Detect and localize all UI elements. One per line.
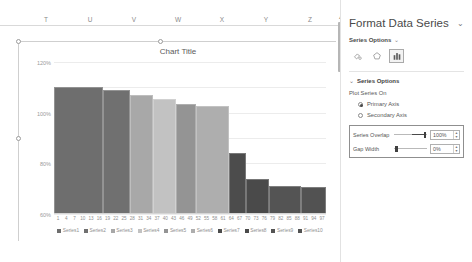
selection-handle-top-center[interactable]	[158, 39, 163, 44]
x-axis-tick-label: 16	[95, 216, 103, 221]
series-overlap-value[interactable]: 100%	[431, 132, 453, 138]
pane-collapse-icon[interactable]: ⌄	[457, 19, 464, 28]
x-axis-tick-label: 25	[120, 216, 128, 221]
bar-series1[interactable]	[54, 62, 103, 214]
fill-line-icon[interactable]	[349, 49, 364, 63]
legend-item[interactable]: Series6	[191, 228, 213, 233]
legend-item[interactable]: Series8	[245, 228, 267, 233]
bar-series8[interactable]	[246, 62, 269, 214]
gap-width-spinner[interactable]: 0% ▲ ▼	[430, 144, 460, 154]
gap-width-row[interactable]: Gap Width 0% ▲ ▼	[353, 143, 460, 154]
chart-border-top	[20, 41, 336, 42]
bar-fill[interactable]	[301, 187, 326, 214]
radio-primary-axis[interactable]: Primary Axis	[358, 101, 464, 107]
gap-width-value[interactable]: 0%	[431, 146, 453, 152]
bar-series3[interactable]	[130, 62, 153, 214]
series-options-section-header[interactable]: ⌄ Series Options	[349, 77, 464, 84]
gap-width-knob[interactable]	[395, 146, 398, 152]
legend-item[interactable]: Series4	[138, 228, 160, 233]
legend-label: Series4	[143, 228, 159, 233]
spin-down-icon[interactable]: ▼	[454, 149, 459, 153]
section-heading-label: Series Options	[357, 78, 399, 84]
x-axis-tick-label: 7	[71, 216, 79, 221]
legend-item[interactable]: Series7	[218, 228, 240, 233]
bar-fill[interactable]	[176, 104, 196, 214]
gap-width-slider[interactable]	[394, 145, 427, 153]
chart-title[interactable]: Chart Title	[18, 47, 338, 56]
series-overlap-label: Series Overlap	[353, 132, 391, 138]
bar-series10[interactable]	[301, 62, 326, 214]
x-axis-tick-label: 52	[194, 216, 202, 221]
spin-down-icon[interactable]: ▼	[454, 135, 459, 139]
legend-swatch	[271, 229, 275, 233]
column-header-u[interactable]: U	[66, 14, 114, 26]
x-axis-tick-label: 22	[112, 216, 120, 221]
radio-primary-axis-indicator[interactable]	[358, 102, 363, 107]
legend-label: Series7	[223, 228, 239, 233]
chart-object[interactable]: Chart Title 0%20%40%60%80%100%120% 14710…	[18, 32, 338, 244]
legend-item[interactable]: Series10	[298, 228, 322, 233]
y-axis-tick-label: 100%	[37, 111, 51, 117]
x-axis-tick-label: 82	[277, 216, 285, 221]
bar-fill[interactable]	[229, 153, 246, 214]
x-axis-tick-label: 49	[186, 216, 194, 221]
radio-secondary-axis-indicator[interactable]	[358, 113, 363, 118]
pane-subtitle: Series Options	[349, 37, 391, 43]
x-axis-tick-label: 61	[219, 216, 227, 221]
bar-series5[interactable]	[176, 62, 196, 214]
legend-label: Series3	[116, 228, 132, 233]
legend-swatch	[84, 229, 88, 233]
legend-item[interactable]: Series2	[84, 228, 106, 233]
bar-series4[interactable]	[153, 62, 176, 214]
column-header-y[interactable]: Y	[242, 14, 290, 26]
bar-series2[interactable]	[103, 62, 130, 214]
legend-item[interactable]: Series3	[111, 228, 133, 233]
gap-width-spin-arrows[interactable]: ▲ ▼	[453, 145, 459, 153]
column-header-v[interactable]: V	[110, 14, 158, 26]
bar-fill[interactable]	[246, 179, 269, 214]
column-header-w[interactable]: W	[154, 14, 202, 26]
y-axis-tick-label: 60%	[40, 212, 51, 218]
chevron-down-icon[interactable]: ⌄	[394, 36, 399, 43]
legend-item[interactable]: Series1	[57, 228, 79, 233]
effects-icon[interactable]	[369, 49, 384, 63]
column-header-x[interactable]: X	[198, 14, 246, 26]
pane-subtitle-row[interactable]: Series Options ⌄	[349, 36, 464, 43]
x-axis-tick-label: 73	[252, 216, 260, 221]
legend-label: Series1	[63, 228, 79, 233]
bar-series7[interactable]	[229, 62, 246, 214]
bar-fill[interactable]	[269, 186, 301, 214]
radio-primary-axis-label: Primary Axis	[367, 101, 399, 107]
chart-plot-area[interactable]: 0%20%40%60%80%100%120%	[54, 62, 326, 214]
series-overlap-spinner[interactable]: 100% ▲ ▼	[430, 130, 460, 140]
series-options-icon[interactable]	[389, 49, 404, 63]
bar-fill[interactable]	[153, 99, 176, 214]
legend-item[interactable]: Series9	[271, 228, 293, 233]
series-overlap-spin-arrows[interactable]: ▲ ▼	[453, 131, 459, 139]
legend-label: Series5	[170, 228, 186, 233]
bar-series9[interactable]	[269, 62, 301, 214]
radio-secondary-axis[interactable]: Secondary Axis	[358, 112, 464, 118]
series-overlap-row[interactable]: Series Overlap 100% ▲ ▼	[353, 129, 460, 140]
column-header-t[interactable]: T	[22, 14, 70, 26]
bar-fill[interactable]	[196, 106, 229, 214]
x-axis-tick-label: 1	[54, 216, 62, 221]
plot-series-on-label: Plot Series On	[349, 90, 464, 96]
section-chevron-icon[interactable]: ⌄	[349, 77, 354, 84]
x-axis-tick-label: 13	[87, 216, 95, 221]
bar-fill[interactable]	[54, 87, 103, 214]
series-overlap-knob[interactable]	[424, 132, 427, 138]
selection-handle-top-left[interactable]	[16, 39, 21, 44]
x-axis-tick-label: 19	[104, 216, 112, 221]
bar-fill[interactable]	[103, 90, 130, 214]
bar-series-group[interactable]	[54, 62, 326, 214]
pane-icon-tabs[interactable]	[349, 49, 464, 63]
bar-fill[interactable]	[130, 95, 153, 214]
legend-item[interactable]: Series5	[164, 228, 186, 233]
column-header-z[interactable]: Z	[286, 14, 334, 26]
series-overlap-slider[interactable]	[394, 131, 427, 139]
chart-legend[interactable]: Series1Series2Series3Series4Series5Serie…	[54, 228, 326, 233]
legend-swatch	[138, 229, 142, 233]
bar-series6[interactable]	[196, 62, 229, 214]
selection-handle-middle-left[interactable]	[16, 136, 21, 141]
